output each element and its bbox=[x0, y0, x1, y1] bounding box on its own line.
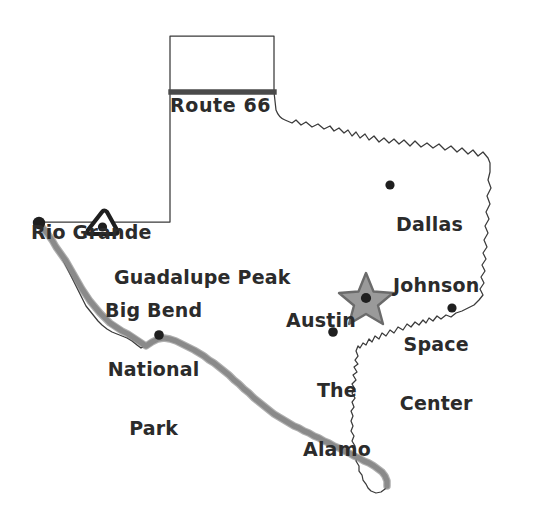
texas-landmarks-map: Route 66 Rio Grande Guadalupe Peak Big B… bbox=[0, 0, 539, 517]
johnson-label-line-3: Center bbox=[393, 394, 479, 414]
johnson-label-line-2: Space bbox=[393, 335, 479, 355]
big-bend-label-line-1: Big Bend bbox=[105, 301, 202, 321]
big-bend-label-line-3: Park bbox=[105, 419, 202, 439]
alamo-label-line-1: The bbox=[303, 381, 371, 401]
label-big-bend-national-park: Big Bend National Park bbox=[105, 261, 202, 478]
dallas-marker-dot bbox=[385, 180, 394, 189]
label-johnson-space-center: Johnson Space Center bbox=[393, 236, 479, 453]
johnson-label-line-1: Johnson bbox=[393, 276, 479, 296]
alamo-label-line-2: Alamo bbox=[303, 440, 371, 460]
dallas-label-text: Dallas bbox=[396, 215, 463, 235]
austin-label-text: Austin bbox=[286, 311, 356, 331]
label-the-alamo: The Alamo bbox=[303, 341, 371, 499]
route-66-label-text: Route 66 bbox=[170, 96, 271, 116]
big-bend-label-line-2: National bbox=[105, 360, 202, 380]
label-route-66: Route 66 bbox=[170, 56, 271, 155]
austin-star-center-dot bbox=[361, 293, 371, 303]
